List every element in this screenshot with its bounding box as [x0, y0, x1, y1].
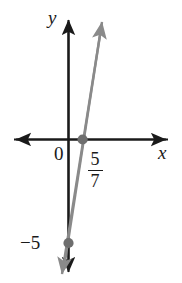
point-y-intercept [63, 238, 73, 248]
fraction-numerator: 5 [85, 150, 105, 170]
origin-label: 0 [54, 144, 64, 163]
x-intercept-fraction-label: 5 7 [85, 150, 105, 191]
graph-figure: y x 0 −5 5 7 [0, 0, 182, 283]
point-x-intercept [78, 134, 88, 144]
x-axis-label: x [158, 143, 166, 162]
y-axis-label: y [48, 8, 56, 27]
fraction-denominator: 7 [85, 171, 105, 191]
y-intercept-label: −5 [20, 233, 40, 252]
